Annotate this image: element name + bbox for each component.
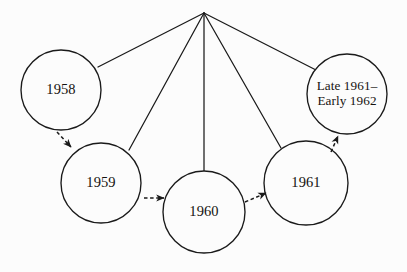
node-1958-circle: [21, 50, 101, 130]
arrow-1961-to-late-1961: [331, 136, 338, 152]
node-late-1961-early-1962-circle: [307, 54, 387, 134]
node-1961-circle: [264, 141, 348, 225]
node-1959-circle: [61, 143, 141, 223]
diagram-graphics: [0, 0, 407, 272]
arrow-1960-to-1961: [245, 193, 266, 202]
node-1960-circle: [163, 171, 245, 253]
diagram-canvas: 1958195919601961Late 1961–Early 1962: [0, 0, 407, 272]
arrow-1958-to-1959: [57, 132, 71, 147]
spoke-to-1959: [129, 13, 204, 150]
spoke-to-1958: [98, 13, 204, 67]
